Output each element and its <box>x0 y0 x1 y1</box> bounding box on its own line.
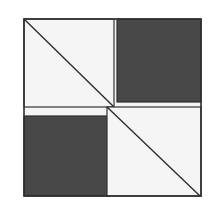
quadrant-top-left <box>24 19 114 107</box>
quadrant-top-right-dark-square <box>117 19 201 102</box>
quadrant-bottom-left-dark-square <box>24 116 110 196</box>
quilt-block-diagram <box>0 0 210 207</box>
quadrant-bottom-right <box>107 107 201 196</box>
